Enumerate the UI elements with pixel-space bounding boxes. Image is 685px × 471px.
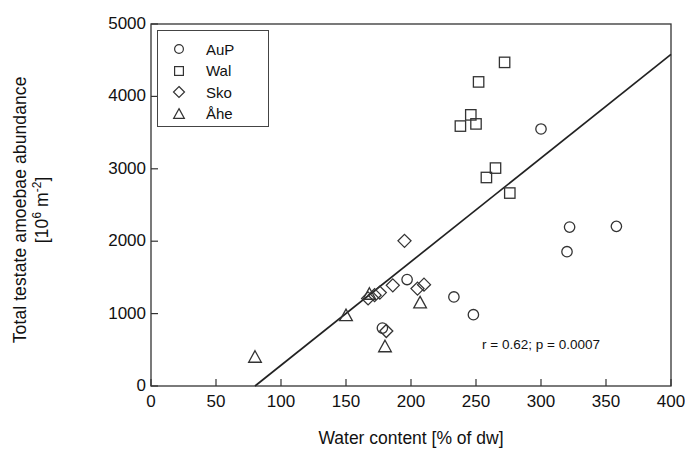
diamond-marker-icon [166, 83, 192, 101]
plot-area [0, 0, 685, 471]
data-point-square [499, 57, 509, 67]
data-point-circle [536, 124, 546, 134]
data-point-triangle [379, 340, 392, 352]
legend-item-AuP[interactable]: AuP [166, 38, 234, 60]
data-point-square [455, 121, 465, 131]
scatter-plot-figure: Total testate amoebae abundance [106 m-2… [0, 0, 685, 471]
data-point-circle [175, 45, 184, 54]
legend-item-Wal[interactable]: Wal [166, 60, 231, 82]
data-point-square [473, 77, 483, 87]
series-AuP [377, 124, 621, 333]
series-Wal [455, 57, 515, 198]
circle-marker-icon [166, 40, 192, 58]
data-point-triangle [249, 351, 262, 363]
data-point-square [175, 66, 184, 75]
legend-label: AuP [206, 41, 234, 58]
legend-label: Wal [206, 62, 231, 79]
stats-annotation: r = 0.62; p = 0.0007 [482, 337, 600, 352]
legend-label: Åhe [206, 105, 233, 122]
legend: AuPWalSkoÅhe [157, 30, 269, 127]
data-point-circle [468, 309, 478, 319]
triangle-marker-icon [166, 105, 192, 123]
data-point-square [505, 188, 515, 198]
square-marker-icon [166, 62, 192, 80]
data-point-circle [449, 292, 459, 302]
legend-item-Åhe[interactable]: Åhe [166, 103, 233, 125]
data-point-triangle [414, 296, 427, 308]
series-Åhe [249, 288, 427, 363]
data-point-circle [564, 222, 574, 232]
data-point-diamond [174, 87, 185, 98]
regression-line [255, 54, 671, 386]
legend-item-Sko[interactable]: Sko [166, 81, 232, 103]
data-point-circle [562, 246, 572, 256]
data-point-triangle [174, 108, 185, 118]
legend-label: Sko [206, 84, 232, 101]
data-point-circle [611, 221, 621, 231]
data-point-circle [402, 274, 412, 284]
series-Sko [362, 234, 431, 337]
data-point-diamond [398, 234, 411, 247]
